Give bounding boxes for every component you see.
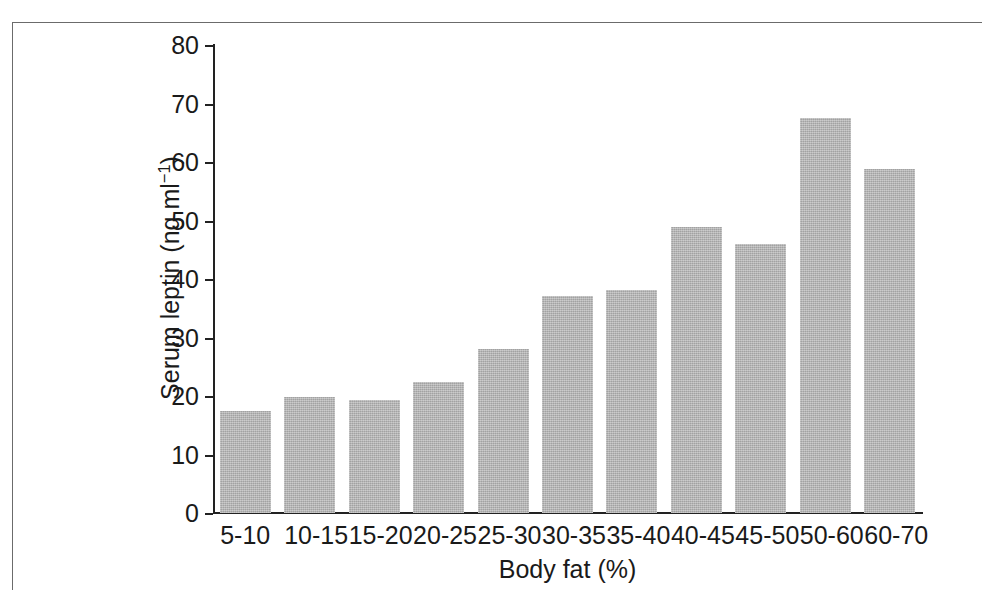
x-axis-tick-label: 5-10 [220,520,271,550]
bar [864,169,915,513]
bar [413,382,464,513]
x-axis-title: Body fat (%) [213,554,922,584]
bar [478,349,529,513]
figure-frame-left-rule [12,22,13,590]
x-axis-tick-label: 25-30 [478,520,529,550]
bar [671,227,722,513]
y-axis-tick [205,45,213,47]
x-axis-tick-label: 20-25 [413,520,464,550]
y-axis-title-superscript: −1 [155,164,173,183]
x-axis-tick-label: 45-50 [735,520,786,550]
figure-frame-top-rule [12,22,982,23]
bar [606,290,657,513]
bar [735,244,786,513]
figure-page: 01020304050607080 5-1010-1515-2020-2525-… [0,0,982,606]
x-axis-tick-label: 15-20 [349,520,400,550]
bar [284,397,335,513]
bar-series [213,45,922,513]
y-axis-tick [205,513,213,515]
y-axis-tick-label: 0 [185,501,199,526]
y-axis-tick [205,104,213,106]
x-axis-tick-labels: 5-1010-1515-2020-2525-3030-3535-4040-454… [213,520,922,554]
bar [220,411,271,513]
y-axis-title: Serum leptin (ng ml−1) [155,43,185,513]
x-axis-tick-label: 50-60 [800,520,851,550]
x-axis-tick-label: 60-70 [864,520,915,550]
y-axis-tick [205,455,213,457]
y-axis-title-text: Serum leptin (ng ml [156,183,184,400]
x-axis-tick-label: 40-45 [671,520,722,550]
y-axis-tick [205,396,213,398]
y-axis-tick [205,221,213,223]
bar [349,400,400,513]
x-axis-tick-label: 30-35 [542,520,593,550]
y-axis-tick [205,162,213,164]
x-axis-tick-label: 35-40 [606,520,657,550]
bar [542,296,593,513]
x-axis-tick-label: 10-15 [284,520,335,550]
bar [800,118,851,513]
y-axis-title-tail: ) [156,156,184,164]
y-axis-tick [205,279,213,281]
y-axis-tick [205,338,213,340]
